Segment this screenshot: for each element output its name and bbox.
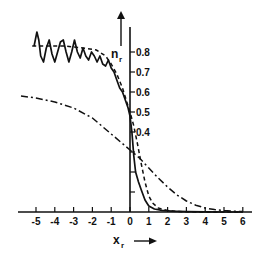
y-tick-label: 0.8: [136, 47, 150, 58]
y-axis-title: n: [111, 47, 118, 61]
x-tick-label: 4: [202, 216, 208, 227]
x-arrow-head-icon: [149, 238, 157, 245]
series-line-dash-dot: [21, 96, 243, 212]
x-axis-title: x: [113, 233, 120, 247]
axes: [18, 11, 252, 212]
x-tick-label: -2: [88, 216, 97, 227]
y-tick-label: 0.7: [136, 67, 150, 78]
y-tick-label: 0.4: [136, 127, 150, 138]
x-tick-label: 3: [184, 216, 190, 227]
y-axis-title-subscript: r: [119, 55, 122, 64]
x-tick-label: -5: [32, 216, 41, 227]
x-tick-label: 2: [165, 216, 171, 227]
y-tick-label: 0.6: [136, 87, 150, 98]
x-axis-title-subscript: r: [121, 241, 124, 250]
x-tick-label: -1: [107, 216, 116, 227]
x-tick-label: 0: [127, 216, 133, 227]
series-line-solid: [34, 32, 243, 212]
chart: -5-4-3-2-101234560.40.50.60.70.8nrxr: [0, 0, 264, 261]
series-group: [21, 32, 243, 212]
labels-group: -5-4-3-2-101234560.40.50.60.70.8nrxr: [32, 47, 246, 250]
y-tick-label: 0.5: [136, 107, 150, 118]
x-tick-label: 6: [240, 216, 246, 227]
x-tick-label: -4: [50, 216, 59, 227]
y-arrow-head-icon: [117, 11, 125, 19]
x-tick-label: -3: [69, 216, 78, 227]
x-tick-label: 5: [221, 216, 227, 227]
x-tick-label: 1: [146, 216, 152, 227]
